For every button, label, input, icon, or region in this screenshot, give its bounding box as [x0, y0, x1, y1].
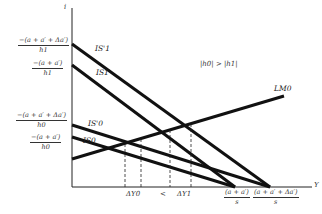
lm0-curve	[72, 96, 284, 159]
lm0-label: LM0	[274, 84, 291, 93]
is0-prime-label: IS'0	[88, 119, 103, 128]
y-intercept-label: −(a + a′) h1	[32, 60, 63, 76]
y-axis-label: i	[64, 4, 66, 11]
less-than-label: <	[160, 191, 166, 198]
is-lm-diagram	[0, 0, 322, 214]
is0-prime-curve	[72, 125, 270, 187]
delta-y0-label: ΔY0	[126, 191, 140, 198]
is1-label: IS1	[96, 68, 109, 77]
delta-y1-label: ΔY1	[177, 191, 191, 198]
is1-prime-curve	[72, 44, 270, 187]
x-intercept-label: (a + a′ + Δa′) s	[253, 189, 299, 205]
is0-label: IS0	[83, 136, 96, 145]
x-intercept-label: (a + a′) s	[224, 189, 250, 205]
is1-prime-label: IS'1	[95, 44, 110, 53]
x-axis-label: Y	[314, 182, 319, 189]
y-intercept-label: −(a + a′) h0	[30, 134, 61, 150]
y-intercept-label: −(a + a′ + Δa′) h1	[18, 37, 69, 53]
y-intercept-label: −(a + a′ + Δa′) h0	[16, 112, 67, 128]
condition-note: |h0| > |h1|	[200, 61, 238, 68]
